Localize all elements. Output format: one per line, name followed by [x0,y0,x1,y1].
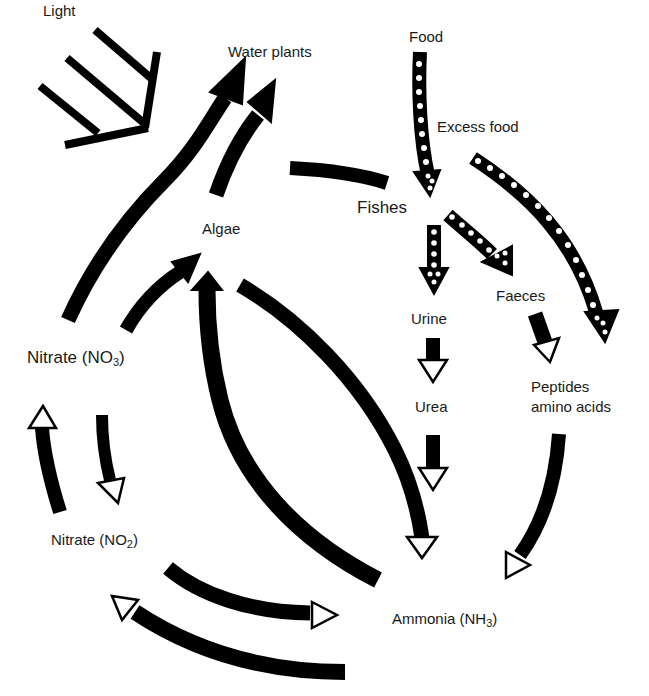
arrow-no2-to-no3 [29,406,60,512]
arrow-peptides-to-ammonia [506,434,559,578]
arrow-fishes-to-urine [420,225,448,294]
label-light: Light [43,2,76,19]
label-food: Food [409,28,443,45]
label-urea: Urea [415,398,448,415]
label-water-plants: Water plants [228,43,312,60]
label-nitrate-no3: Nitrate (NO3) [27,348,125,368]
label-ammonia-text: Ammonia (NH [392,610,486,627]
label-nitrate-no2-paren: ) [133,531,138,548]
arrow-nitrate-to-algae [126,254,200,330]
line-fishes-to-plants [290,168,387,183]
arrow-algae-to-ammonia [240,285,437,558]
light-rays-icon [40,30,157,145]
arrow-fishes-to-faeces [448,214,512,275]
arrow-no3-to-no2 [98,415,124,503]
label-nitrate-no3-paren: ) [119,348,125,367]
arrow-no2-to-ammonia [168,568,337,628]
label-ammonia: Ammonia (NH3) [392,610,497,627]
label-ammonia-paren: ) [492,610,497,627]
arrow-faeces-to-peptides [534,314,559,362]
label-urine: Urine [411,310,447,327]
label-nitrate-no2: Nitrate (NO2) [51,531,138,548]
label-nitrate-no3-text: Nitrate (NO [27,348,113,367]
label-algae: Algae [202,220,240,237]
label-fishes: Fishes [357,198,407,218]
arrow-urea-to-ammonia [419,435,447,490]
arrow-urine-to-urea [419,338,447,382]
label-excess-food: Excess food [437,118,519,135]
label-peptides-line2: amino acids [531,398,611,415]
label-peptides: Peptides amino acids [531,378,611,416]
label-peptides-line1: Peptides [531,378,611,395]
label-nitrate-no2-text: Nitrate (NO [51,531,127,548]
label-faeces: Faeces [496,287,545,304]
